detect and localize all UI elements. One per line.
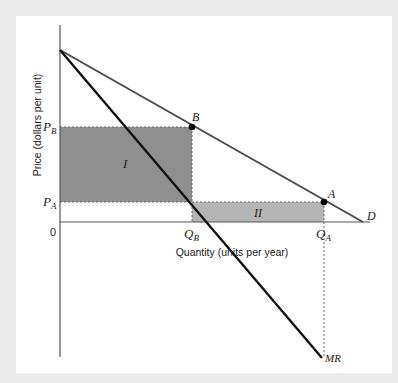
- x-axis-label: Quantity (units per year): [176, 246, 289, 258]
- point-a-marker: [321, 199, 328, 206]
- tick-q-b: QB: [184, 226, 199, 243]
- region-ii-label: II: [253, 206, 263, 220]
- tick-q-a: QA: [316, 226, 331, 243]
- tick-p-b: PB: [42, 119, 57, 136]
- point-b-marker: [189, 124, 196, 131]
- mr-label: MR: [324, 352, 341, 364]
- demand-label: D: [366, 209, 376, 223]
- region-i-label: I: [122, 156, 128, 171]
- point-b-label: B: [192, 110, 200, 124]
- y-axis-label: Price (dollars per unit): [31, 74, 43, 177]
- point-a-label: A: [327, 187, 336, 201]
- chart-svg: Price (dollars per unit) PB PA 0 QB QA Q…: [0, 0, 398, 383]
- origin-label: 0: [50, 226, 56, 238]
- tick-p-a: PA: [42, 194, 57, 211]
